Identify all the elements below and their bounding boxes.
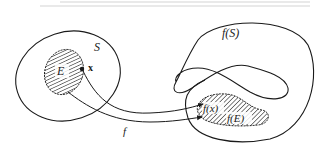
point-x-dot bbox=[80, 67, 84, 71]
page-bleed-text bbox=[40, 1, 310, 7]
image-point-label: f(x) bbox=[203, 103, 218, 114]
image-subset-label: f(E) bbox=[227, 113, 244, 124]
set-s-label: S bbox=[94, 41, 100, 53]
image-set-figure-eight-loop bbox=[174, 40, 288, 99]
point-x-label: x bbox=[88, 63, 93, 73]
mapping-arrow-e-to-fe bbox=[68, 92, 202, 122]
subset-e-label: E bbox=[57, 65, 64, 77]
mapping-diagram bbox=[0, 0, 322, 148]
image-set-label: f(S) bbox=[222, 27, 239, 39]
mapping-f-label: f bbox=[123, 126, 126, 137]
